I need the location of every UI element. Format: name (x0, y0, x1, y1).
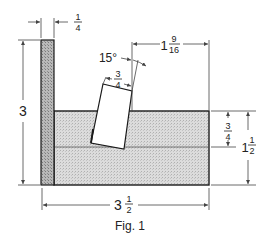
dim-angle (121, 58, 146, 91)
label-angle: 15° (99, 51, 117, 65)
svg-text:16: 16 (169, 45, 179, 55)
svg-text:1: 1 (126, 194, 131, 204)
svg-text:4: 4 (115, 80, 120, 90)
dim-top-thickness (28, 18, 68, 38)
svg-text:1: 1 (249, 135, 254, 145)
svg-text:2: 2 (126, 205, 131, 215)
tilted-slot-block (91, 84, 132, 149)
label-slot-width: 3 4 (114, 69, 122, 90)
svg-text:3: 3 (114, 197, 122, 213)
svg-text:3: 3 (225, 121, 230, 131)
svg-text:2: 2 (249, 146, 254, 156)
label-bottom-width: 3 1 2 (114, 194, 133, 215)
label-right-total-height: 1 1 2 (241, 135, 256, 156)
svg-text:4: 4 (225, 132, 230, 142)
label-right-inner-height: 3 4 (224, 121, 232, 142)
label-left-height: 3 (19, 103, 27, 119)
technical-drawing: 1 4 3 15° 3 4 1 9 16 3 4 1 1 2 3 1 2 Fig… (0, 0, 268, 248)
label-top-right-offset: 1 9 16 (160, 34, 180, 55)
svg-text:1: 1 (241, 140, 248, 155)
upright-bar (41, 40, 54, 185)
figure-caption: Fig. 1 (115, 219, 145, 233)
base-block (54, 111, 209, 185)
svg-text:4: 4 (75, 23, 80, 33)
svg-text:1: 1 (75, 12, 80, 22)
label-top-thickness: 1 4 (74, 12, 82, 33)
svg-text:3: 3 (115, 69, 120, 79)
svg-text:9: 9 (171, 34, 176, 44)
svg-text:1: 1 (160, 38, 167, 53)
